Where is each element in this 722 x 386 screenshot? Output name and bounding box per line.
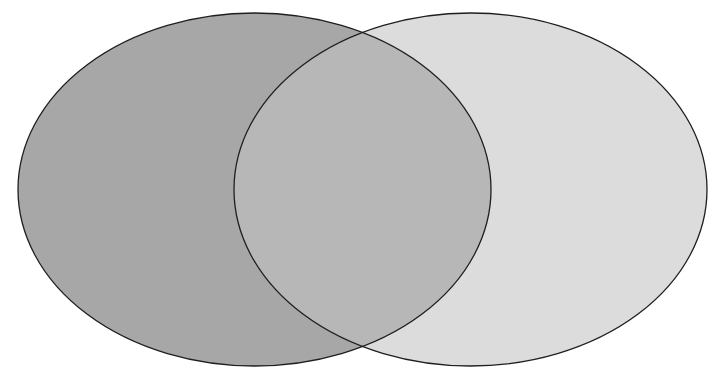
venn-diagram bbox=[0, 0, 722, 386]
venn-diagram-canvas bbox=[0, 0, 722, 386]
